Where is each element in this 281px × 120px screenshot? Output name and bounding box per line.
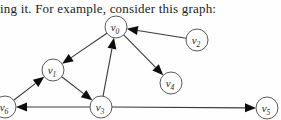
- node-label-subscript-v0: 0: [116, 27, 120, 36]
- node-label-subscript-v3: 3: [100, 107, 105, 116]
- node-label-subscript-v5: 5: [267, 108, 271, 117]
- edge-v6-to-v1: [14, 83, 36, 100]
- arrowhead-v1-to-v3: [81, 90, 92, 100]
- node-label-subscript-v2: 2: [197, 40, 201, 49]
- edge-v3-to-v5: [112, 107, 245, 108]
- arrowhead-v6-to-v1: [33, 77, 44, 87]
- arrowhead-v3-to-v0: [108, 38, 117, 50]
- node-label-subscript-v4: 4: [171, 83, 175, 92]
- figure-page: ing it. For example, consider this graph…: [0, 0, 281, 120]
- arrowhead-v3-to-v5: [245, 103, 256, 112]
- edge-v1-to-v3: [62, 77, 84, 94]
- arrowhead-v2-to-v0: [127, 26, 139, 35]
- node-label-subscript-v6: 6: [5, 107, 9, 116]
- directed-graph-diagram: v0v1v2v3v4v5v6: [0, 0, 281, 120]
- edge-v2-to-v0: [138, 30, 186, 38]
- arrowhead-v0-to-v1: [62, 54, 74, 64]
- edge-v0-to-v4: [124, 35, 156, 67]
- edge-v0-to-v1: [71, 33, 107, 57]
- node-label-subscript-v1: 1: [53, 70, 57, 79]
- edge-v3-to-v0: [103, 49, 112, 97]
- arrowhead-v3-to-v6: [16, 103, 27, 112]
